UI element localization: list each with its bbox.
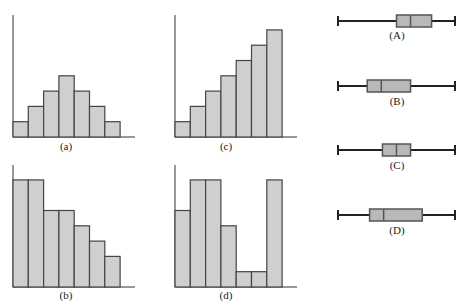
histogram-a-bar <box>59 76 74 137</box>
histogram-c-bar <box>252 45 267 137</box>
histogram-d-bar <box>175 211 190 288</box>
boxplot-B-label: (B) <box>377 95 417 107</box>
histogram-b-bar <box>44 211 59 288</box>
histogram-d-bar <box>190 180 205 287</box>
boxplot-B-box <box>367 80 410 92</box>
histogram-d-bar <box>221 226 236 287</box>
histogram-c-bar <box>190 106 205 137</box>
histogram-b-label: (b) <box>46 289 86 301</box>
histogram-a-label: (a) <box>46 140 86 152</box>
boxplot-A-box <box>397 15 432 27</box>
boxplot-D-label: (D) <box>377 224 417 236</box>
histogram-d-label: (d) <box>206 289 246 301</box>
histogram-c-bar <box>175 122 190 137</box>
histogram-d-bar <box>206 180 221 287</box>
histogram-b-bar <box>74 226 89 287</box>
histogram-b-bar <box>13 180 28 287</box>
histogram-a-bar <box>105 122 120 137</box>
histogram-c-bar <box>221 76 236 137</box>
boxplot-A-label: (A) <box>377 29 417 41</box>
boxplot-D-box <box>370 209 423 221</box>
histogram-c-label: (c) <box>206 140 246 152</box>
histogram-a-bar <box>28 106 43 137</box>
histogram-d-bar <box>252 272 267 287</box>
histogram-a-bar <box>44 91 59 137</box>
histogram-b-bar <box>28 180 43 287</box>
histogram-a-bar <box>90 106 105 137</box>
histogram-d-bar <box>267 180 282 287</box>
figure-canvas <box>0 0 465 305</box>
histogram-b-bar <box>90 241 105 287</box>
histogram-c-bar <box>236 61 251 138</box>
histogram-b-bar <box>105 256 120 287</box>
boxplot-C-label: (C) <box>377 159 417 171</box>
histogram-b-bar <box>59 211 74 288</box>
histogram-c-bar <box>267 30 282 137</box>
histogram-c-bar <box>206 91 221 137</box>
histogram-a-bar <box>13 122 28 137</box>
histogram-d-bar <box>236 272 251 287</box>
histogram-a-bar <box>74 91 89 137</box>
